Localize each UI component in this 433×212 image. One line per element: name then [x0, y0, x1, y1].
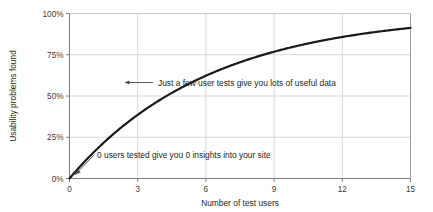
x-tick-label-1: 3 [135, 185, 140, 194]
annotation-few-users-label: Just a few user tests give you lots of u… [158, 78, 336, 88]
y-tick-label-4: 100% [43, 10, 64, 19]
y-tick-label-2: 50% [47, 92, 63, 101]
x-axis-title: Number of test users [201, 198, 279, 208]
x-tick-label-3: 9 [272, 185, 277, 194]
x-tick-label-4: 12 [338, 185, 348, 194]
chart-background [0, 0, 433, 212]
y-tick-label-0: 0% [52, 175, 64, 184]
x-tick-label-2: 6 [204, 185, 209, 194]
x-tick-label-5: 15 [406, 185, 416, 194]
chart-canvas: 0%25%50%75%100% 03691215 Just a few user… [0, 0, 433, 212]
x-tick-label-0: 0 [67, 185, 72, 194]
y-tick-label-1: 25% [47, 133, 63, 142]
annotation-zero-users-label: 0 users tested give you 0 insights into … [97, 150, 271, 160]
usability-curve-chart: 0%25%50%75%100% 03691215 Just a few user… [0, 0, 433, 212]
y-tick-label-3: 75% [47, 51, 63, 60]
y-axis-title: Usability problems found [8, 50, 18, 142]
